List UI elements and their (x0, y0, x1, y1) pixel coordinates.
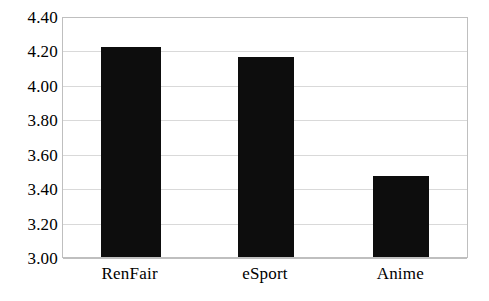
bar (101, 47, 161, 257)
x-axis-tick-label: RenFair (62, 262, 197, 290)
x-axis-tick-label: eSport (197, 262, 332, 290)
bars-group (63, 18, 467, 257)
y-axis-tick-label: 3.00 (2, 250, 58, 267)
gridline (63, 258, 467, 259)
y-axis-tick-label: 4.20 (2, 43, 58, 60)
y-axis-tick-label: 3.40 (2, 181, 58, 198)
bar-chart: 4.404.204.003.803.603.403.203.00 RenFair… (0, 0, 489, 301)
y-axis-tick-label: 3.20 (2, 215, 58, 232)
y-axis: 4.404.204.003.803.603.403.203.00 (0, 0, 58, 301)
y-axis-tick-label: 3.60 (2, 146, 58, 163)
y-axis-tick-label: 4.00 (2, 77, 58, 94)
plot-area (62, 17, 468, 258)
bar (238, 57, 294, 257)
bar (373, 176, 429, 257)
y-axis-tick-label: 4.40 (2, 9, 58, 26)
x-axis: RenFaireSportAnime (62, 262, 468, 290)
x-axis-tick-label: Anime (333, 262, 468, 290)
y-axis-tick-label: 3.80 (2, 112, 58, 129)
